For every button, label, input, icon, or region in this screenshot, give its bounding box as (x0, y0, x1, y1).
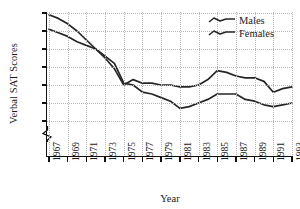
gridline-horizontal (47, 121, 293, 122)
x-axis-tick-label: 1979 (164, 142, 174, 161)
gridline-horizontal (47, 67, 293, 68)
legend: Males Females (208, 14, 274, 40)
x-axis-tick (217, 157, 218, 162)
x-axis-tick-label: 1983 (202, 142, 212, 161)
x-axis-tick (86, 157, 87, 162)
gridline-vertical (124, 12, 125, 156)
x-axis-tick-label: 1975 (127, 142, 137, 161)
x-axis-tick-label: 1973 (108, 142, 118, 161)
gridline-vertical (68, 12, 69, 156)
x-axis-tick (48, 157, 49, 162)
y-axis-tick (42, 102, 47, 103)
gridline-vertical (142, 12, 143, 156)
x-axis-tick-label: 1977 (145, 142, 155, 161)
legend-label-males: Males (239, 15, 265, 26)
x-axis-tick (67, 157, 68, 162)
x-axis-tick (160, 157, 161, 162)
x-axis-tick-label: 1987 (239, 142, 249, 161)
gridline-vertical (161, 12, 162, 156)
y-axis-title: Verbal SAT Scores (8, 14, 19, 154)
legend-line-sample-icon (208, 15, 236, 26)
x-axis-tick-label: 1991 (276, 142, 286, 161)
x-axis-tick (198, 157, 199, 162)
y-axis-tick (42, 120, 47, 121)
gridline-horizontal (47, 49, 293, 50)
legend-label-females: Females (239, 28, 274, 39)
x-axis-tick-label: 1989 (258, 142, 268, 161)
gridline-vertical (86, 12, 87, 156)
gridline-vertical (49, 12, 50, 156)
gridline-vertical (105, 12, 106, 156)
x-axis-tick (254, 157, 255, 162)
gridline-horizontal (47, 103, 293, 104)
x-axis-tick (123, 157, 124, 162)
x-axis-tick-label: 1971 (89, 142, 99, 161)
y-axis-tick (42, 12, 47, 13)
legend-item-females: Females (208, 27, 274, 40)
x-axis-tick-label: 1967 (52, 142, 62, 161)
gridline-vertical (292, 12, 293, 156)
y-axis-tick (42, 48, 47, 49)
legend-item-males: Males (208, 14, 274, 27)
y-axis-tick (42, 84, 47, 85)
legend-line-sample-icon (208, 28, 236, 39)
x-axis-tick (179, 157, 180, 162)
y-axis-tick (42, 30, 47, 31)
x-axis-tick (104, 157, 105, 162)
x-axis-tick (235, 157, 236, 162)
x-axis-tick-label: 1985 (220, 142, 230, 161)
x-axis-tick (291, 157, 292, 162)
x-axis-tick-label: 1981 (183, 142, 193, 161)
y-axis-tick (42, 66, 47, 67)
x-axis-tick (273, 157, 274, 162)
x-axis-tick (142, 157, 143, 162)
gridline-vertical (180, 12, 181, 156)
verbal-sat-scores-line-chart: Verbal SAT Scores Year Males Females 470… (0, 0, 300, 209)
x-axis-title: Year (46, 193, 294, 204)
gridline-horizontal (47, 85, 293, 86)
x-axis-tick-label: 1969 (71, 142, 81, 161)
gridline-vertical (199, 12, 200, 156)
x-axis-tick-label: 1993 (295, 142, 300, 161)
